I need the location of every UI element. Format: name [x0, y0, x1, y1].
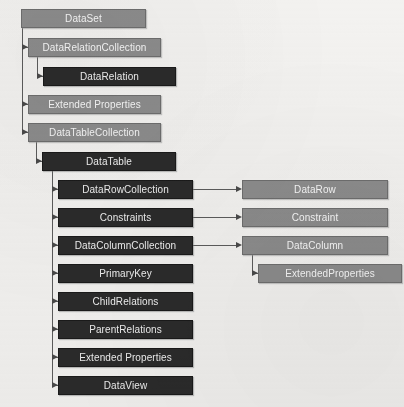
node-label: PrimaryKey — [99, 268, 152, 279]
node-datarelationcollection[interactable]: DataRelationCollection — [28, 38, 161, 57]
node-label: DataColumn — [287, 240, 344, 251]
node-datatable[interactable]: DataTable — [42, 152, 176, 171]
node-label: Extended Properties — [48, 99, 141, 110]
node-datarelation[interactable]: DataRelation — [43, 67, 176, 86]
node-label: DataColumnCollection — [75, 240, 177, 251]
node-label: DataTableCollection — [49, 127, 140, 138]
node-extendedproperties-datacolumn[interactable]: ExtendedProperties — [258, 264, 402, 283]
node-label: DataRelationCollection — [43, 42, 147, 53]
node-label: ParentRelations — [89, 324, 162, 335]
node-datacolumncollection[interactable]: DataColumnCollection — [58, 236, 193, 255]
node-primarykey[interactable]: PrimaryKey — [58, 264, 193, 283]
node-label: Constraint — [292, 212, 339, 223]
node-label: DataRelation — [80, 71, 139, 82]
node-label: ChildRelations — [93, 296, 159, 307]
node-label: ExtendedProperties — [285, 268, 375, 279]
node-dataset[interactable]: DataSet — [21, 9, 146, 28]
node-label: DataRow — [294, 184, 336, 195]
connector-datarowcollection-to-datarow — [193, 189, 236, 190]
diagram-canvas: DataSet DataRelationCollection DataRelat… — [0, 0, 404, 407]
scan-texture-overlay — [0, 0, 404, 407]
node-label: Extended Properties — [79, 352, 172, 363]
connector-dataset-trunk — [22, 27, 23, 133]
node-extendedproperties-datatable[interactable]: Extended Properties — [58, 348, 193, 367]
node-label: DataTable — [86, 156, 132, 167]
connector-datacolumncollection-to-datacolumn — [193, 245, 236, 246]
node-childrelations[interactable]: ChildRelations — [58, 292, 193, 311]
node-label: DataSet — [65, 13, 102, 24]
node-datarow[interactable]: DataRow — [242, 180, 388, 199]
node-datacolumn[interactable]: DataColumn — [242, 236, 388, 255]
connector-constraints-to-constraint — [193, 217, 236, 218]
node-constraint[interactable]: Constraint — [242, 208, 388, 227]
node-constraints[interactable]: Constraints — [58, 208, 193, 227]
node-label: DataView — [104, 380, 147, 391]
node-label: DataRowCollection — [82, 184, 169, 195]
node-extendedproperties-dataset[interactable]: Extended Properties — [28, 95, 161, 114]
node-datarowcollection[interactable]: DataRowCollection — [58, 180, 193, 199]
node-label: Constraints — [100, 212, 152, 223]
node-dataview[interactable]: DataView — [58, 376, 193, 395]
node-parentrelations[interactable]: ParentRelations — [58, 320, 193, 339]
node-datatablecollection[interactable]: DataTableCollection — [28, 123, 161, 142]
